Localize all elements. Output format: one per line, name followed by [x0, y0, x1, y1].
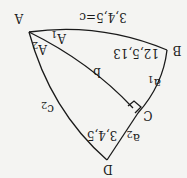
svg-text:C: C	[143, 108, 152, 122]
svg-text:a1: a1	[147, 74, 161, 90]
svg-text:A1: A1	[51, 29, 67, 45]
edge-label-a2: a2	[126, 129, 140, 145]
edge-label-c: 3,4,5=c	[79, 10, 127, 24]
spherical-quadrilateral-diagram: A B C D 3,4,5=c 12,5,13 3,4,5 b A1 A2	[0, 0, 187, 178]
edge-label-b: b	[93, 65, 101, 79]
svg-text:b: b	[93, 65, 101, 79]
svg-text:D: D	[103, 162, 113, 176]
vertex-label-D: D	[103, 162, 113, 176]
triangle-label-ACD: 3,4,5	[87, 128, 118, 142]
diagram-canvas: A B C D 3,4,5=c 12,5,13 3,4,5 b A1 A2	[0, 0, 187, 178]
svg-text:12,5,13: 12,5,13	[113, 46, 159, 60]
edge-label-c2: c2	[41, 100, 54, 116]
svg-text:A: A	[14, 11, 24, 25]
angle-label-A2: A2	[32, 40, 48, 56]
svg-text:A2: A2	[32, 40, 48, 56]
vertex-label-A: A	[14, 11, 24, 25]
vertex-label-C: C	[143, 108, 152, 122]
triangle-label-ABC: 12,5,13	[113, 46, 159, 60]
svg-text:B: B	[172, 43, 181, 57]
svg-text:a2: a2	[126, 129, 140, 145]
edge-label-a1: a1	[147, 74, 161, 90]
angle-label-A1: A1	[51, 29, 67, 45]
svg-text:3,4,5=c: 3,4,5=c	[79, 10, 127, 24]
svg-text:3,4,5: 3,4,5	[87, 128, 118, 142]
vertex-label-B: B	[172, 43, 181, 57]
svg-text:c2: c2	[41, 100, 54, 116]
